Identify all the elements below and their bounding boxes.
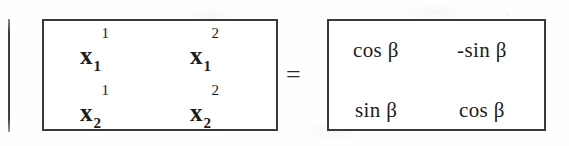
- scan-smudge: [400, 4, 470, 20]
- matrix-cell-r1c2: -sin β: [457, 40, 507, 61]
- matrix-cell-r2c1: x21: [80, 100, 100, 125]
- vertical-rule: [8, 19, 10, 132]
- components-matrix: x11 x12 x21 x22: [42, 19, 278, 131]
- component-superscript: 2: [212, 26, 220, 41]
- component-symbol: x22: [190, 100, 210, 125]
- component-base: x: [80, 99, 93, 126]
- component-superscript: 1: [102, 26, 110, 41]
- component-base: x: [190, 42, 203, 69]
- equation-figure: x11 x12 x21 x22 = cos β -sin β sin β cos…: [0, 0, 569, 146]
- component-symbol: x21: [80, 100, 100, 125]
- equals-sign: =: [286, 60, 301, 90]
- component-symbol: x11: [80, 43, 100, 68]
- matrix-cell-r1c1: x11: [80, 43, 100, 68]
- matrix-cell-r2c1: sin β: [355, 100, 397, 121]
- matrix-cell-r1c2: x12: [190, 43, 210, 68]
- component-subscript: 2: [94, 115, 102, 131]
- matrix-cell-r2c2: x22: [190, 100, 210, 125]
- rotation-matrix: cos β -sin β sin β cos β: [327, 19, 546, 131]
- component-superscript: 2: [212, 83, 220, 98]
- component-subscript: 1: [94, 58, 102, 74]
- component-superscript: 1: [102, 83, 110, 98]
- component-symbol: x12: [190, 43, 210, 68]
- component-subscript: 2: [204, 115, 212, 131]
- matrix-cell-r1c1: cos β: [353, 40, 399, 61]
- matrix-cell-r2c2: cos β: [459, 100, 505, 121]
- scan-speckle: [505, 12, 509, 16]
- component-base: x: [190, 99, 203, 126]
- component-subscript: 1: [204, 58, 212, 74]
- component-base: x: [80, 42, 93, 69]
